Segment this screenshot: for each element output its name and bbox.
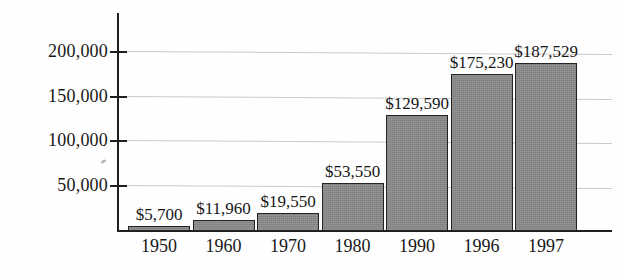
x-axis-label-1996: 1996 [451, 236, 513, 256]
x-axis-label-1960: 1960 [193, 236, 255, 256]
bar-1950 [128, 226, 190, 231]
y-tick-label-50000: 50,000 [4, 176, 108, 194]
x-axis-label-1970: 1970 [257, 236, 319, 256]
y-axis-tick-labels: 200,000 150,000 100,000 50,000 [0, 0, 108, 276]
bar-1997 [515, 63, 577, 231]
y-tick-label-100000: 100,000 [4, 131, 108, 149]
x-axis-label-1997: 1997 [515, 236, 577, 256]
x-axis-label-1950: 1950 [128, 236, 190, 256]
y-tick-label-200000: 200,000 [4, 42, 108, 60]
x-axis-label-1990: 1990 [386, 236, 448, 256]
bar-chart: 200,000 150,000 100,000 50,000 $5,700$11… [0, 0, 622, 276]
bar-value-1970: $19,550 [244, 193, 332, 210]
x-axis-label-1980: 1980 [322, 236, 384, 256]
bar-value-1997: $187,529 [502, 43, 590, 60]
bar-value-1990: $129,590 [373, 95, 461, 112]
y-tick-label-150000: 150,000 [4, 87, 108, 105]
bar-value-1980: $53,550 [309, 163, 397, 180]
